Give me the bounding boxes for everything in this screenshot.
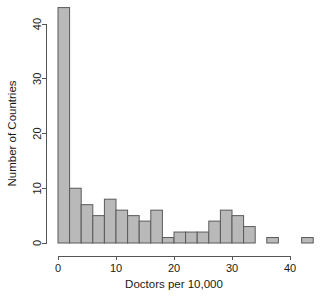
y-tick-label: 20	[31, 127, 43, 139]
x-tick-label: 10	[110, 262, 122, 274]
y-tick-label: 40	[31, 18, 43, 30]
histogram-bar	[302, 238, 314, 243]
y-tick-label: 0	[31, 240, 43, 246]
histogram-bar	[116, 210, 128, 243]
histogram-bar	[81, 205, 93, 243]
histogram-canvas: 010203040 010203040 Doctors per 10,000Nu…	[0, 0, 332, 299]
histogram-bar	[104, 199, 116, 243]
x-axis-title: Doctors per 10,000	[125, 278, 223, 290]
bars-group	[58, 8, 313, 243]
x-axis: 010203040	[55, 256, 296, 274]
histogram-bar	[220, 210, 232, 243]
x-tick-label: 0	[55, 262, 61, 274]
histogram-bar	[70, 188, 82, 243]
histogram-bar	[128, 216, 140, 243]
histogram-bar	[174, 232, 186, 243]
histogram-bar	[162, 238, 174, 243]
histogram-bar	[186, 232, 198, 243]
histogram-bar	[232, 216, 244, 243]
histogram-bar	[139, 221, 151, 243]
histogram-bar	[93, 216, 105, 243]
histogram-bar	[209, 221, 221, 243]
x-tick-label: 20	[168, 262, 180, 274]
histogram-bar	[244, 227, 256, 243]
histogram-bar	[197, 232, 209, 243]
y-axis: 010203040	[31, 18, 46, 246]
plot-area: 010203040 010203040 Doctors per 10,000Nu…	[0, 0, 332, 299]
histogram-figure: 010203040 010203040 Doctors per 10,000Nu…	[0, 0, 332, 299]
y-tick-label: 10	[31, 182, 43, 194]
histogram-bar	[267, 238, 279, 243]
y-axis-title: Number of Countries	[6, 80, 18, 186]
x-tick-label: 30	[226, 262, 238, 274]
x-tick-label: 40	[284, 262, 296, 274]
y-tick-label: 30	[31, 73, 43, 85]
histogram-bar	[58, 8, 70, 243]
histogram-bar	[151, 210, 163, 243]
